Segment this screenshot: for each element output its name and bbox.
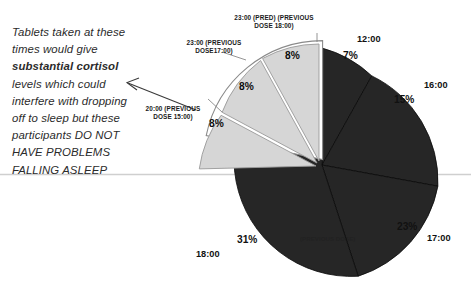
annotation-line: participants DO NOT: [12, 127, 152, 144]
pie-chart-slide: Tablets taken at these times would give …: [0, 0, 471, 306]
callout-line: 23:00 (PREVIOUS: [165, 39, 263, 47]
percent-label-1600: 15%: [394, 94, 414, 105]
faint-inner-label: (PREVIOUS DOSE): [300, 235, 355, 242]
callout-line: 23:00 (PRED) (PREVIOUS: [218, 14, 330, 22]
percent-label-1800: 31%: [237, 234, 257, 245]
annotation-line: times would give: [12, 41, 152, 58]
callout-2300-pred: 23:00 (PRED) (PREVIOUS DOSE 18:00): [218, 14, 330, 31]
percent-label-2300-pred: 8%: [285, 50, 300, 61]
callout-2300: 23:00 (PREVIOUS DOSE17:00): [165, 39, 263, 56]
annotation-line: Tablets taken at these: [12, 24, 152, 41]
percent-label-1200: 7%: [343, 50, 358, 61]
time-label-1600: 16:00: [424, 80, 448, 90]
annotation-line-emphasis: substantial cortisol: [12, 58, 152, 75]
percent-label-2000: 8%: [209, 118, 224, 129]
callout-line: DOSE 18:00): [218, 22, 330, 30]
annotation-line: FALLING ASLEEP: [12, 162, 152, 179]
time-label-1800: 18:00: [196, 249, 220, 259]
annotation-text: Tablets taken at these times would give …: [12, 24, 152, 179]
annotation-line: levels which could: [12, 76, 152, 93]
percent-label-2300: 8%: [239, 81, 254, 92]
percent-label-1700: 23%: [397, 221, 417, 232]
annotation-line: HAVE PROBLEMS: [12, 144, 152, 161]
time-label-1700: 17:00: [427, 233, 451, 243]
callout-line: DOSE17:00): [165, 47, 263, 55]
callout-line: DOSE 15:00): [126, 113, 220, 121]
callout-line: 20:00 (PREVIOUS: [126, 105, 220, 113]
time-label-1200: 12:00: [357, 34, 381, 44]
callout-2000: 20:00 (PREVIOUS DOSE 15:00): [126, 105, 220, 122]
